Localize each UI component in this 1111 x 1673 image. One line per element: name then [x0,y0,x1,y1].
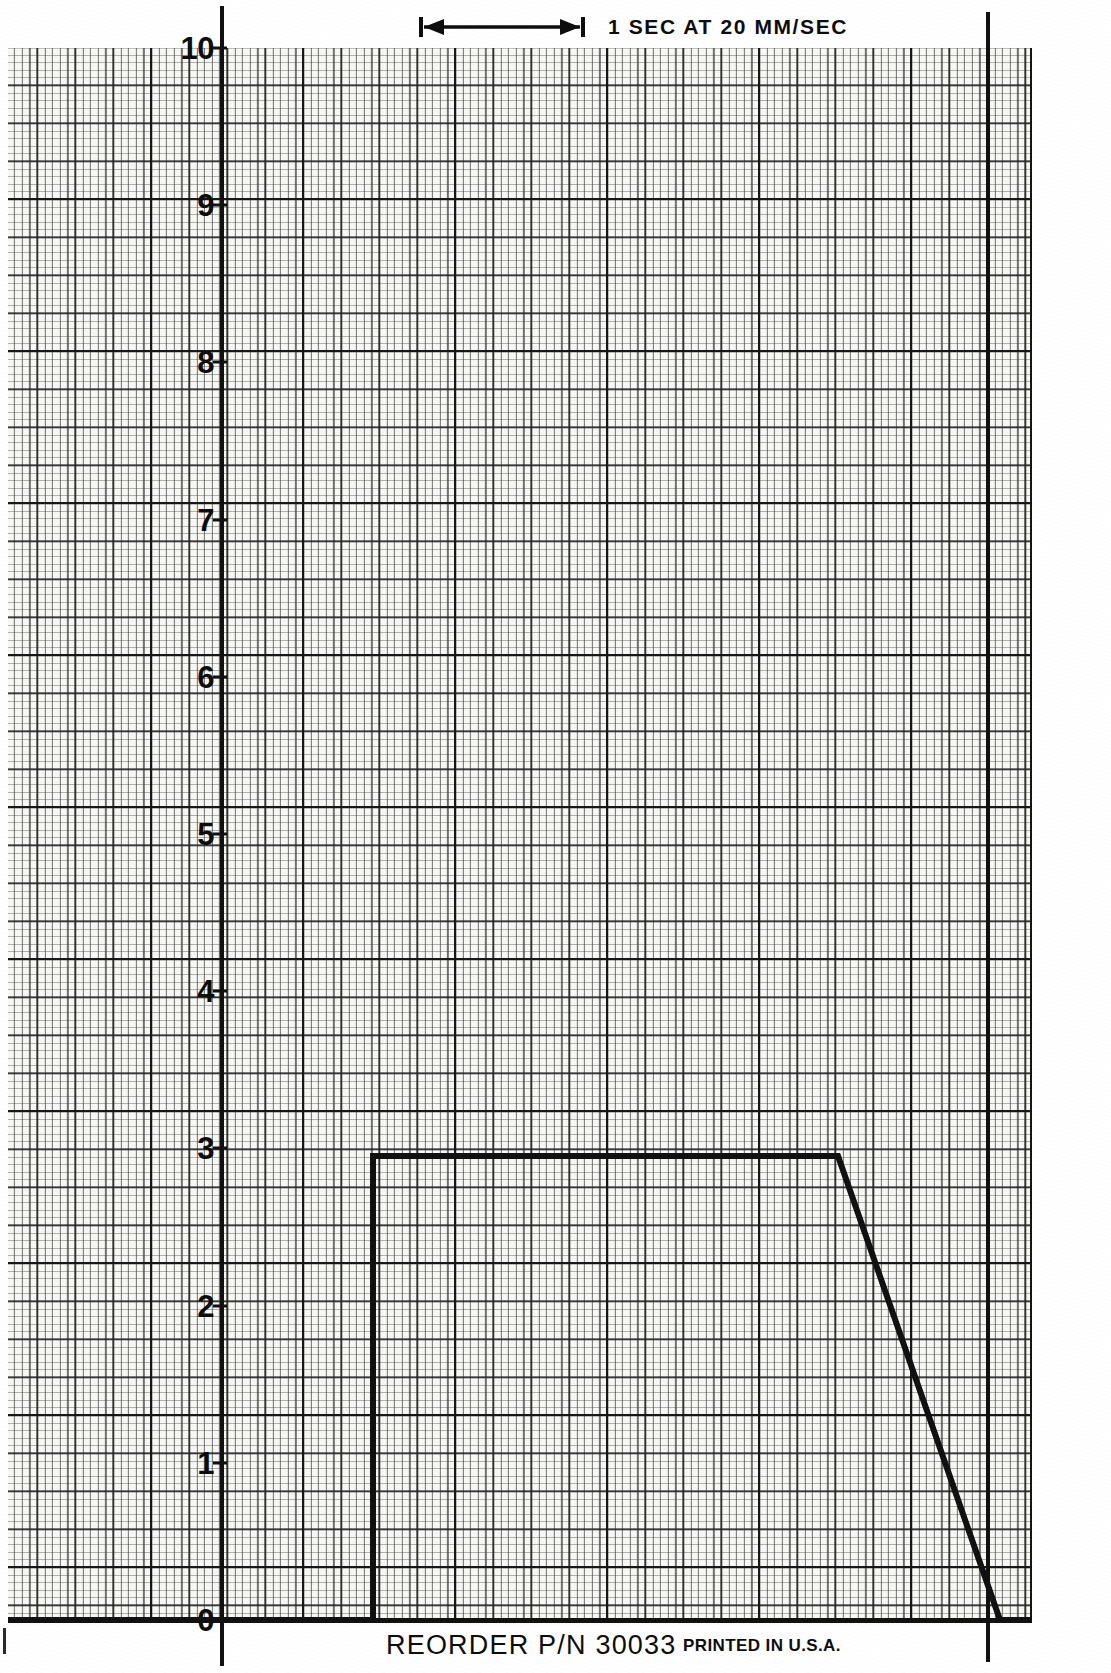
y-axis-tick-mark-0 [213,1619,227,1622]
y-axis-tick-label-3: 3 [148,1133,220,1164]
reorder-part-number: REORDER P/N 30033 [386,1630,677,1661]
timebase-label: 1 SEC AT 20 MM/SEC [608,15,848,39]
y-axis-tick-label-10: 10 [148,33,220,64]
y-axis-labels: 109876543210 [0,0,220,1673]
y-axis-tick-mark-7 [213,518,227,521]
y-axis-tick-label-8: 8 [148,347,220,378]
y-axis-tick-label-5: 5 [148,819,220,850]
y-axis-tick-label-9: 9 [148,190,220,221]
y-axis-tick-label-1: 1 [148,1447,220,1478]
y-axis-tick-mark-4 [213,990,227,993]
event-marker-line [986,12,990,1662]
y-axis-tick-label-6: 6 [148,661,220,692]
y-axis-tick-mark-8 [213,361,227,364]
y-axis-tick-mark-6 [213,675,227,678]
y-axis-tick-mark-2 [213,1304,227,1307]
printed-in-usa-text: PRINTED IN U.S.A. [683,1636,841,1656]
y-axis-tick-mark-10 [213,47,227,50]
y-axis-tick-mark-9 [213,204,227,207]
y-axis-tick-label-7: 7 [148,504,220,535]
y-axis-tick-mark-5 [213,833,227,836]
y-axis-tick-label-4: 4 [148,976,220,1007]
timebase-annotation: 1 SEC AT 20 MM/SEC [418,10,848,44]
y-axis-tick-mark-3 [213,1147,227,1150]
right-margin [1032,0,1111,1673]
footer: REORDER P/N 30033 PRINTED IN U.S.A. [0,1628,1111,1673]
y-axis-line [220,6,224,1666]
double-headed-arrow-icon [418,15,586,39]
y-axis-tick-label-2: 2 [148,1290,220,1321]
y-axis-tick-mark-1 [213,1461,227,1464]
edge-registration-tick [3,1628,6,1654]
chart-paper-page: 109876543210 1 SEC AT 20 MM/SEC REORDER … [0,0,1111,1673]
